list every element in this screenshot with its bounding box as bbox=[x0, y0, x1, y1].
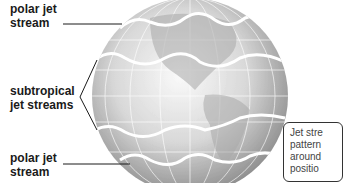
callout-line: positio bbox=[290, 163, 336, 175]
label-line: jet streams bbox=[10, 98, 75, 112]
callout-line: around bbox=[290, 151, 336, 163]
label-line: subtropical bbox=[10, 84, 75, 98]
callout-box: Jet stre pattern around positio bbox=[283, 122, 343, 182]
label-line: stream bbox=[10, 165, 57, 179]
label-polar-jet-stream-top: polar jet stream bbox=[10, 2, 57, 30]
label-polar-jet-stream-bottom: polar jet stream bbox=[10, 151, 57, 179]
label-line: polar jet bbox=[10, 2, 57, 16]
callout-line: Jet stre bbox=[290, 127, 336, 139]
label-line: stream bbox=[10, 16, 57, 30]
callout-line: pattern bbox=[290, 139, 336, 151]
label-subtropical-jet-streams: subtropical jet streams bbox=[10, 84, 75, 112]
label-line: polar jet bbox=[10, 151, 57, 165]
